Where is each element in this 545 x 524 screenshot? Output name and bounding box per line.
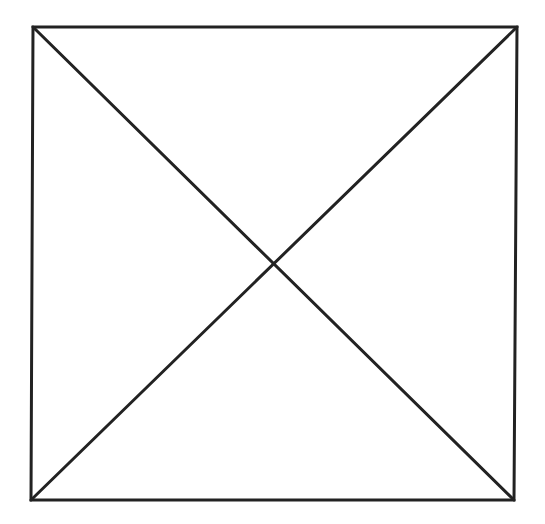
square-diagonals-diagram bbox=[0, 0, 545, 524]
